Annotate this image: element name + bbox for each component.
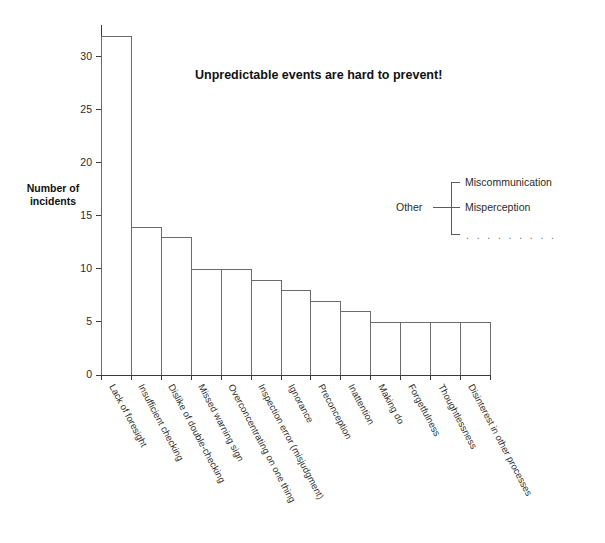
- other-annotation-bracket-top: [451, 182, 460, 183]
- bar: [131, 227, 162, 375]
- other-annotation-label: Other: [396, 201, 422, 213]
- x-tick-mark: [221, 375, 222, 380]
- y-tick-label: 0: [86, 368, 92, 381]
- bar: [161, 237, 192, 375]
- other-annotation-stem: [433, 207, 451, 208]
- bar: [370, 322, 401, 375]
- x-tick-mark: [340, 375, 341, 380]
- bar: [191, 269, 222, 375]
- other-annotation-bracket: [451, 182, 452, 234]
- bar: [221, 269, 252, 375]
- bar: [400, 322, 431, 375]
- x-tick-mark: [281, 375, 282, 380]
- y-axis-title: Number of incidents: [16, 182, 90, 207]
- y-axis-title-line1: Number of: [16, 182, 90, 195]
- x-tick-mark: [490, 375, 491, 380]
- bar: [340, 311, 371, 375]
- other-annotation-item-misperception: Misperception: [465, 201, 530, 213]
- y-tick-label: 30: [80, 50, 92, 63]
- x-tick-mark: [460, 375, 461, 380]
- other-annotation: Other Miscommunication Misperception . .…: [396, 178, 571, 238]
- x-tick-mark: [370, 375, 371, 380]
- other-annotation-item-ellipsis: . . . . . . . . .: [466, 229, 556, 241]
- bar: [430, 322, 461, 375]
- bar: [281, 290, 312, 375]
- bar: [310, 301, 341, 375]
- bar-chart: Number of incidents Unpredictable events…: [0, 0, 605, 543]
- other-annotation-bracket-mid: [451, 207, 460, 208]
- bar: [251, 280, 282, 375]
- y-tick-label: 15: [80, 209, 92, 222]
- y-tick-label: 10: [80, 262, 92, 275]
- bar: [460, 322, 491, 375]
- y-tick-label: 20: [80, 156, 92, 169]
- x-tick-mark: [191, 375, 192, 380]
- x-tick-mark: [430, 375, 431, 380]
- x-axis-line: [101, 375, 491, 376]
- x-tick-mark: [131, 375, 132, 380]
- x-tick-mark: [161, 375, 162, 380]
- other-annotation-bracket-bottom: [451, 234, 460, 235]
- x-tick-mark: [400, 375, 401, 380]
- x-axis-label: Making do: [376, 382, 406, 426]
- x-axis-label: Inattention: [346, 382, 377, 426]
- y-axis-title-line2: incidents: [16, 195, 90, 208]
- x-tick-mark: [251, 375, 252, 380]
- x-tick-mark: [310, 375, 311, 380]
- x-axis-label: Dislike of double-checking: [167, 382, 229, 485]
- x-tick-mark: [101, 375, 102, 380]
- y-tick-label: 5: [86, 315, 92, 328]
- bar: [101, 36, 132, 375]
- other-annotation-item-miscommunication: Miscommunication: [465, 176, 552, 188]
- y-tick-label: 25: [80, 103, 92, 116]
- x-axis-label: Ignorance: [286, 382, 316, 424]
